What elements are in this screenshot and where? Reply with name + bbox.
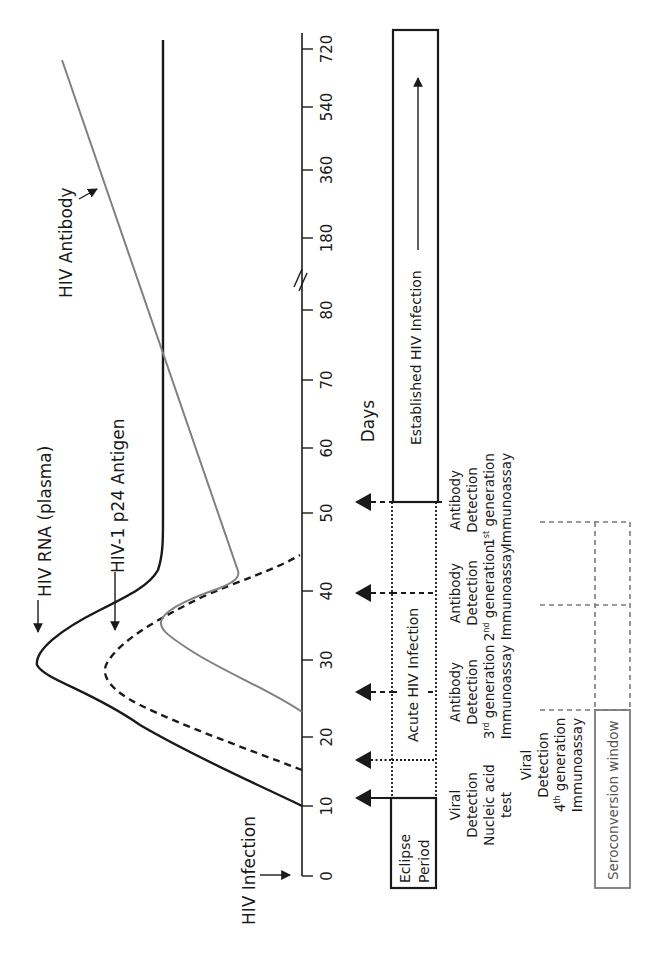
axis-tick-labels: 0 10 20 30 40 50 60 70 80 180 360 540 72…	[318, 35, 336, 881]
acute-infection-box: Acute HIV Infection	[392, 502, 442, 798]
days-axis: 0 10 20 30 40 50 60 70 80 180 360 540 72…	[294, 33, 378, 881]
tick-label: 10	[318, 796, 336, 815]
label-established-infection: Established HIV Infection	[408, 270, 424, 445]
triangle-marker-icon	[355, 789, 371, 807]
test-line: Detection	[464, 560, 480, 626]
test-line: Immunoassay	[498, 645, 514, 739]
series-hiv-antibody	[62, 60, 302, 712]
test-line: 3rd generation	[481, 645, 497, 740]
test-line: Immunoassay	[498, 546, 514, 640]
tick-label: 40	[318, 581, 336, 600]
tick-label: 20	[318, 727, 336, 746]
eclipse-period-box: Eclipse Period	[391, 798, 436, 888]
tick-label: 30	[318, 650, 336, 669]
hiv-timeline-chart: 0 10 20 30 40 50 60 70 80 180 360 540 72…	[0, 0, 660, 965]
tick-label: 70	[318, 370, 336, 389]
tick-label: 180	[318, 224, 336, 253]
triangle-marker-icon	[355, 751, 371, 769]
tick-label: 720	[318, 35, 336, 64]
label-period: Period	[416, 839, 432, 883]
test-line: 2nd generation	[481, 545, 497, 641]
test-line: Detection	[464, 659, 480, 725]
test-label-2nd-gen: Antibody Detection 2nd generation Immuno…	[447, 545, 514, 641]
test-line: Immunoassay	[569, 718, 585, 812]
tick-label: 0	[318, 871, 336, 881]
annotation-antibody: HIV Antibody	[56, 187, 97, 298]
test-line: Antibody	[447, 563, 463, 623]
label-hiv-rna: HIV RNA (plasma)	[35, 446, 55, 597]
triangle-marker-icon	[355, 493, 371, 511]
established-infection-box: Established HIV Infection	[393, 30, 438, 502]
test-line: Viral	[447, 790, 463, 820]
seroconversion-window: Seroconversion window	[540, 522, 630, 888]
axis-break-icon	[294, 269, 307, 291]
tick-label: 50	[318, 503, 336, 522]
test-line: Detection	[464, 467, 480, 533]
arrow-icon	[79, 189, 97, 199]
tick-label: 80	[318, 300, 336, 319]
series-hiv-rna	[37, 40, 302, 806]
test-line: Immunoassay	[498, 453, 514, 547]
label-acute-infection: Acute HIV Infection	[405, 608, 421, 742]
triangle-marker-icon	[355, 584, 371, 602]
test-label-4th-gen: Viral Detection 4th generation Immunoass…	[518, 718, 585, 813]
label-eclipse: Eclipse	[397, 834, 413, 883]
label-hiv-infection: HIV Infection	[239, 816, 259, 925]
tick-label: 360	[318, 156, 336, 185]
test-label-1st-gen: Antibody Detection 1st generation Immuno…	[447, 453, 514, 547]
test-line: Antibody	[447, 470, 463, 530]
test-line: Nucleic acid	[481, 764, 497, 846]
test-line: 4th generation	[552, 718, 568, 813]
triangle-marker-icon	[355, 683, 371, 701]
test-line: Antibody	[447, 662, 463, 722]
label-seroconversion-window: Seroconversion window	[605, 720, 621, 880]
test-label-nat: Viral Detection Nucleic acid test	[447, 764, 514, 846]
label-hiv-antibody: HIV Antibody	[56, 187, 76, 298]
annotation-hiv-rna: HIV RNA (plasma)	[35, 446, 55, 632]
test-label-3rd-gen: Antibody Detection 3rd generation Immuno…	[447, 645, 514, 740]
label-p24-antigen: HIV-1 p24 Antigen	[108, 419, 128, 573]
test-line: test	[498, 792, 514, 818]
axis-title-days: Days	[358, 400, 378, 443]
test-line: 1st generation	[481, 453, 497, 547]
series-p24-antigen	[105, 555, 302, 770]
tick-label: 540	[318, 93, 336, 122]
tick-label: 60	[318, 438, 336, 457]
annotation-hiv-infection: HIV Infection	[239, 816, 290, 925]
test-line: Viral	[518, 750, 534, 780]
test-line: Detection	[535, 732, 551, 798]
test-line: Detection	[464, 772, 480, 838]
detection-markers	[355, 493, 371, 807]
